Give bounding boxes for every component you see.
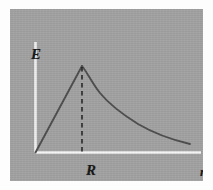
radius-tick-label: R: [86, 163, 96, 178]
y-axis-label: E: [31, 47, 41, 62]
x-axis-label: r: [200, 165, 203, 178]
curve-inside-sphere: [36, 66, 83, 153]
curve-outside-sphere: [82, 66, 190, 144]
chart-panel: E R r: [10, 9, 203, 181]
electric-field-figure: E R r: [0, 0, 213, 190]
chart-plot-area: [10, 9, 203, 181]
